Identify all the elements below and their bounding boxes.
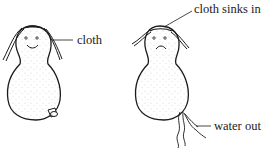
label-water-out: water out [214, 120, 261, 133]
label-cloth-sinks-in: cloth sinks in [194, 3, 261, 16]
gourd-before [3, 25, 73, 120]
water-stream-icon [177, 112, 206, 148]
leader-line-cloth-sinks [164, 11, 192, 27]
label-cloth: cloth [77, 34, 102, 47]
gourd-after [132, 11, 211, 148]
